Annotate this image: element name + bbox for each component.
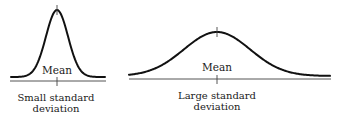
- panel-large-standard-deviation: Mean Large standard deviation: [129, 27, 331, 112]
- normal-distribution-comparison-diagram: Mean Small standard deviation Mean Large…: [0, 0, 341, 123]
- mean-label-small: Mean: [42, 64, 72, 76]
- caption-line1-small: Small standard: [18, 92, 96, 103]
- panel-small-standard-deviation: Mean Small standard deviation: [10, 5, 106, 114]
- caption-line1-large: Large standard: [178, 90, 257, 101]
- mean-label-large: Mean: [202, 61, 232, 73]
- caption-line2-small: deviation: [33, 103, 80, 114]
- caption-line2-large: deviation: [194, 101, 241, 112]
